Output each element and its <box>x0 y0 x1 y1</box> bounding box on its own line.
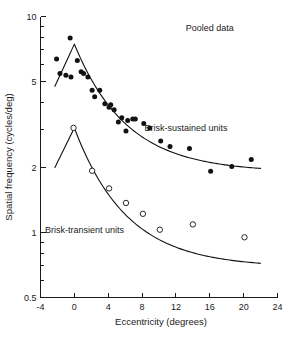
data-point <box>140 211 145 216</box>
data-point <box>125 118 130 123</box>
data-point <box>75 58 80 63</box>
data-point <box>187 146 192 151</box>
data-point <box>116 119 121 124</box>
series-brisk-sustained-points <box>54 36 254 174</box>
chart-annotation-label: Pooled data <box>186 23 234 33</box>
data-point <box>157 227 162 232</box>
data-point <box>208 169 213 174</box>
y-tick-label: 0.5 <box>24 293 37 303</box>
data-point <box>68 36 73 41</box>
x-tick-label: 16 <box>205 302 215 312</box>
chart-canvas: 0.512510 -404812162024 Pooled dataBrisk-… <box>0 0 293 340</box>
data-point <box>90 88 95 93</box>
data-point <box>89 168 94 173</box>
data-point <box>108 102 113 107</box>
data-point <box>119 115 124 120</box>
y-axis-tick-labels: 0.512510 <box>24 12 37 303</box>
data-point <box>63 73 68 78</box>
data-point <box>71 125 76 130</box>
data-point <box>229 164 234 169</box>
data-point <box>54 57 59 62</box>
fit-curve-path <box>55 128 261 263</box>
x-tick-label: 0 <box>72 302 77 312</box>
data-point <box>168 144 173 149</box>
data-point <box>112 107 117 112</box>
y-tick-label: 5 <box>31 77 36 87</box>
x-axis-title: Eccentricity (degrees) <box>115 316 207 327</box>
data-point <box>92 94 97 99</box>
y-tick-label: 10 <box>26 12 36 22</box>
data-point <box>81 71 86 76</box>
y-axis-minor-ticks <box>41 26 45 280</box>
data-point <box>123 200 128 205</box>
x-tick-label: 24 <box>272 302 282 312</box>
y-axis-title: Spatial frequency (cycles/deg) <box>3 93 14 220</box>
data-point <box>190 222 195 227</box>
chart-annotation-label: Brisk-sustained units <box>145 123 229 133</box>
data-point <box>242 235 247 240</box>
y-axis-major-ticks <box>41 17 46 298</box>
data-point <box>85 74 90 79</box>
data-point <box>97 88 102 93</box>
y-tick-label: 1 <box>31 228 36 238</box>
data-point <box>106 186 111 191</box>
data-point <box>133 117 138 122</box>
figure-container: 0.512510 -404812162024 Pooled dataBrisk-… <box>0 0 293 340</box>
x-tick-label: 4 <box>106 302 111 312</box>
x-tick-label: -4 <box>36 302 44 312</box>
data-point <box>249 157 254 162</box>
data-point <box>68 74 73 79</box>
data-point <box>102 101 107 106</box>
data-point <box>158 139 163 144</box>
x-tick-label: 8 <box>140 302 145 312</box>
x-tick-label: 12 <box>171 302 181 312</box>
data-point <box>123 129 128 134</box>
x-axis-major-ticks <box>41 293 278 298</box>
fit-curve-path <box>55 44 261 168</box>
x-axis-tick-labels: -404812162024 <box>36 302 282 312</box>
y-tick-label: 2 <box>31 163 36 173</box>
chart-annotation-label: Brisk-transient units <box>45 225 125 235</box>
x-tick-label: 20 <box>239 302 249 312</box>
data-point <box>57 71 62 76</box>
